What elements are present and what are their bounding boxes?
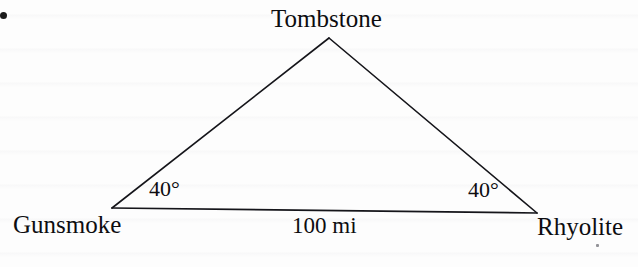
triangle-side-gunsmoke-tombstone bbox=[112, 38, 329, 208]
triangle-side-tombstone-rhyolite bbox=[329, 38, 537, 213]
vertex-label-gunsmoke: Gunsmoke bbox=[13, 212, 121, 237]
vertex-label-tombstone: Tombstone bbox=[271, 6, 382, 31]
vertex-label-rhyolite: Rhyolite bbox=[537, 214, 623, 239]
angle-label-gunsmoke: 40° bbox=[149, 178, 180, 200]
base-length-label: 100 mi bbox=[292, 214, 357, 237]
triangle-diagram-canvas: Tombstone Gunsmoke Rhyolite 100 mi 40° 4… bbox=[0, 0, 638, 267]
angle-label-rhyolite: 40° bbox=[468, 179, 499, 201]
